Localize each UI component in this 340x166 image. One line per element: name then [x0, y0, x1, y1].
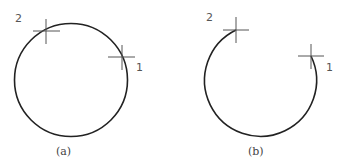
point-label-1: 1	[136, 61, 143, 74]
cross-marker-2	[223, 17, 249, 43]
point-label-2: 2	[15, 12, 22, 25]
figure-a: 2 1 (a)	[15, 12, 144, 158]
full-circle	[15, 24, 128, 137]
cross-marker-1	[108, 45, 135, 70]
diagram-canvas: 2 1 (a) 2 1 (b)	[0, 0, 340, 166]
cross-marker-1	[298, 44, 324, 69]
caption-b: (b)	[248, 145, 264, 158]
point-label-1: 1	[326, 61, 333, 74]
point-label-2: 2	[206, 11, 213, 24]
open-arc	[205, 30, 317, 136]
caption-a: (a)	[56, 145, 71, 158]
figure-b: 2 1 (b)	[205, 11, 333, 158]
cross-marker-2	[33, 19, 60, 44]
